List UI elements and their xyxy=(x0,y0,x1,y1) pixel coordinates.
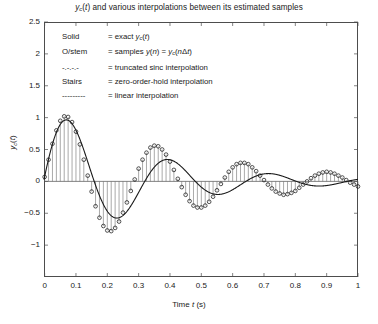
legend-row: O/stem= samples y(n) = yc(nΔt) xyxy=(62,45,213,60)
y-tick-label: 1.5 xyxy=(10,81,40,90)
figure-canvas: yc(t) and various interpolations between… xyxy=(0,0,378,324)
x-tick-label: 0.5 xyxy=(186,281,216,290)
legend-description: = linear interpolation xyxy=(108,89,178,103)
y-tick-label: −0.5 xyxy=(10,208,40,217)
legend-key: Solid xyxy=(62,30,108,44)
legend-description: = truncated sinc interpolation xyxy=(108,61,208,75)
legend-textblock: Solid= exact yc(t)O/stem= samples y(n) =… xyxy=(62,30,213,103)
x-tick-label: 1 xyxy=(343,281,373,290)
x-tick-label: 0.2 xyxy=(92,281,122,290)
x-tick-label: 0.7 xyxy=(249,281,279,290)
legend-row: Solid= exact yc(t) xyxy=(62,30,213,45)
x-axis-label: Time t (s) xyxy=(0,300,378,309)
sample-markers xyxy=(43,115,360,233)
x-tick-label: 0.3 xyxy=(124,281,154,290)
legend-key: Stairs xyxy=(62,75,108,89)
y-tick-label: 1 xyxy=(10,113,40,122)
legend-key: O/stem xyxy=(62,45,108,59)
y-tick-label: 0 xyxy=(10,176,40,185)
y-tick-label: −1 xyxy=(10,240,40,249)
legend-key: -.-.-.- xyxy=(62,61,108,75)
chart-title: yc(t) and various interpolations between… xyxy=(0,3,378,12)
y-tick-label: 2.5 xyxy=(10,17,40,26)
legend-key: --------- xyxy=(62,89,108,103)
x-tick-label: 0.9 xyxy=(312,281,342,290)
x-tick-label: 0.8 xyxy=(280,281,310,290)
legend-description: = exact yc(t) xyxy=(108,30,150,45)
legend-row: ---------= linear interpolation xyxy=(62,89,213,103)
exact-signal-curve xyxy=(44,120,358,218)
x-tick-label: 0 xyxy=(30,281,60,290)
x-tick-label: 0.4 xyxy=(155,281,185,290)
legend-row: Stairs= zero-order-hold interpolation xyxy=(62,75,213,89)
legend-row: -.-.-.-= truncated sinc interpolation xyxy=(62,61,213,75)
legend-description: = zero-order-hold interpolation xyxy=(108,75,213,89)
x-tick-label: 0.6 xyxy=(218,281,248,290)
legend-description: = samples y(n) = yc(nΔt) xyxy=(108,45,192,60)
y-axis-label: yc(t) xyxy=(8,123,17,163)
y-tick-label: 2 xyxy=(10,49,40,58)
x-tick-label: 0.1 xyxy=(61,281,91,290)
